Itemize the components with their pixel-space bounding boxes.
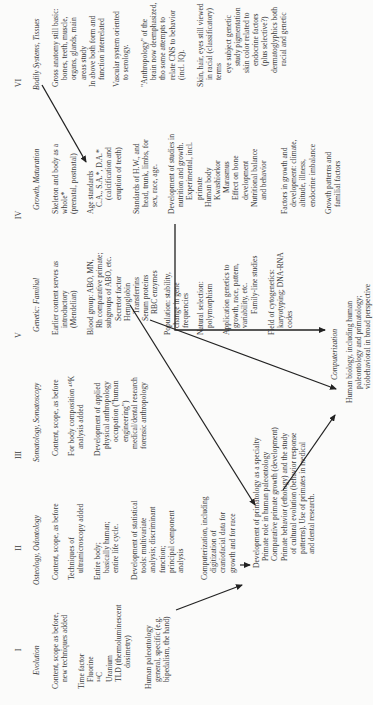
arrow-growth-to-computerization bbox=[175, 224, 325, 330]
arrow-bodily-to-growth bbox=[42, 85, 86, 162]
rotated-page: I Evolution Content, scope as before, ne… bbox=[0, 0, 373, 705]
flow-arrows bbox=[0, 0, 373, 705]
arrow-paleontology-to-primatology bbox=[176, 585, 242, 610]
arrow-hemoglobin-to-primatology bbox=[130, 305, 255, 505]
arrow-primatology-to-computerization bbox=[283, 415, 335, 490]
